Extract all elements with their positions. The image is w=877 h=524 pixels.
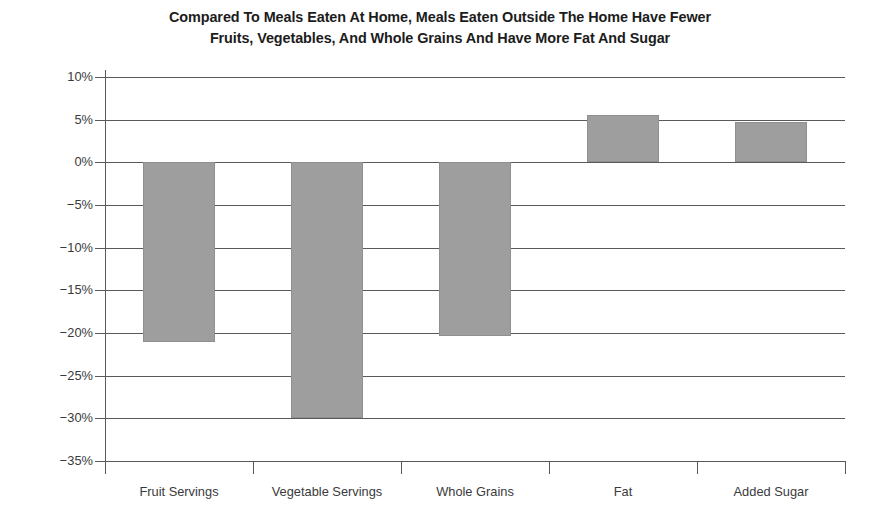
x-axis-category-label: Fat bbox=[553, 484, 694, 500]
y-axis-label: −10% bbox=[9, 241, 93, 255]
chart-title-line-1: Compared To Meals Eaten At Home, Meals E… bbox=[87, 6, 794, 27]
bar-chart: Compared To Meals Eaten At Home, Meals E… bbox=[0, 0, 877, 524]
y-axis-tick bbox=[95, 248, 105, 249]
y-axis-tick bbox=[95, 418, 105, 419]
y-axis-tick bbox=[95, 162, 105, 163]
x-axis-tick bbox=[697, 461, 698, 474]
y-axis-label: 0% bbox=[9, 155, 93, 169]
y-axis-label: −30% bbox=[9, 411, 93, 425]
y-axis-tick bbox=[95, 205, 105, 206]
y-axis-label: −15% bbox=[9, 283, 93, 297]
bar-series bbox=[105, 77, 845, 461]
x-axis-category-label: Whole Grains bbox=[405, 484, 546, 500]
y-axis-label: −35% bbox=[9, 454, 93, 468]
x-axis-category-label: Vegetable Servings bbox=[257, 484, 398, 500]
x-axis-end-tick bbox=[845, 461, 846, 474]
bar bbox=[735, 122, 807, 162]
plot-area bbox=[105, 77, 845, 461]
x-axis-tick bbox=[401, 461, 402, 474]
bar bbox=[291, 162, 363, 418]
y-axis-label: 5% bbox=[9, 113, 93, 127]
bar bbox=[143, 162, 215, 341]
y-axis-tick bbox=[95, 120, 105, 121]
y-axis-tick bbox=[95, 376, 105, 377]
y-axis-label: −5% bbox=[9, 198, 93, 212]
y-axis-label: −25% bbox=[9, 369, 93, 383]
y-axis-label: 10% bbox=[9, 70, 93, 84]
y-axis-tick bbox=[95, 333, 105, 334]
y-axis-tick bbox=[95, 290, 105, 291]
x-axis-tick bbox=[549, 461, 550, 474]
x-axis-line bbox=[105, 461, 845, 462]
chart-title-line-2: Fruits, Vegetables, And Whole Grains And… bbox=[87, 27, 794, 48]
y-axis-label: −20% bbox=[9, 326, 93, 340]
x-axis-tick bbox=[253, 461, 254, 474]
x-axis-category-label: Fruit Servings bbox=[109, 484, 250, 500]
y-axis-tick bbox=[95, 461, 105, 462]
chart-title: Compared To Meals Eaten At Home, Meals E… bbox=[87, 6, 794, 48]
x-axis-category-label: Added Sugar bbox=[701, 484, 842, 500]
y-axis-tick bbox=[95, 77, 105, 78]
bar bbox=[587, 115, 659, 162]
bar bbox=[439, 162, 511, 335]
x-axis-end-tick bbox=[105, 461, 106, 474]
